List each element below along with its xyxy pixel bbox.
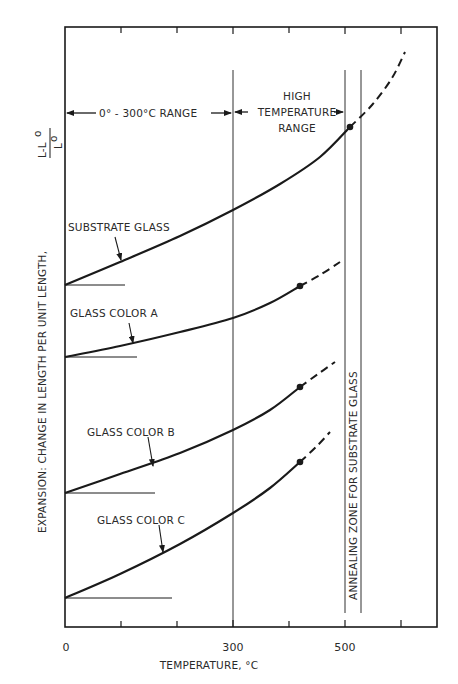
curve-end-dot [297, 384, 304, 391]
expansion-chart: 0° - 300°C RANGE HIGH TEMPERATURE RANGE … [0, 0, 458, 684]
series-substrate-glass [65, 52, 405, 285]
y-frac-numerator: L-L [36, 142, 48, 158]
x-axis-title: TEMPERATURE, °C [159, 659, 259, 671]
curve-solid [65, 127, 350, 285]
x-tick-label-300: 300 [222, 641, 244, 654]
curve-solid [65, 387, 300, 493]
series-label-color-c: GLASS COLOR C [97, 514, 185, 526]
series-label-color-a: GLASS COLOR A [70, 307, 158, 319]
label-pointer-arrow [159, 525, 163, 552]
curve-end-dot [297, 283, 304, 290]
curve-dashed-extension [350, 52, 405, 127]
label-pointer-arrow [129, 323, 133, 343]
curve-end-dot [347, 124, 354, 131]
label-pointer-arrow [115, 237, 121, 260]
series-label-substrate: SUBSTRATE GLASS [68, 221, 170, 233]
curve-solid [65, 462, 300, 598]
curve-dashed-extension [300, 362, 335, 387]
y-frac-denominator: L [52, 143, 64, 149]
range-high-label-3: RANGE [278, 122, 316, 134]
range-low-label: 0° - 300°C RANGE [99, 107, 197, 119]
range-high-annotation: HIGH TEMPERATURE RANGE [235, 90, 343, 134]
curve-dashed-extension [300, 262, 340, 286]
annealing-zone-label: ANNEALING ZONE FOR SUBSTRATE GLASS [347, 371, 359, 600]
range-high-label-2: TEMPERATURE [257, 106, 337, 118]
x-ticks-bottom [121, 620, 401, 627]
label-pointer-arrow [148, 437, 153, 466]
y-axis-title: EXPANSION: CHANGE IN LENGTH PER UNIT LEN… [36, 251, 48, 533]
range-high-label-1: HIGH [283, 90, 311, 102]
x-tick-label-0: 0 [62, 641, 69, 654]
x-ticks-top [121, 27, 401, 34]
y-axis-fraction: L-L o L o [31, 128, 64, 158]
curve-solid [65, 286, 300, 357]
y-frac-numerator-sub: o [31, 130, 43, 137]
series-label-color-b: GLASS COLOR B [87, 426, 175, 438]
annealing-zone-annotation: ANNEALING ZONE FOR SUBSTRATE GLASS [347, 315, 359, 600]
curve-end-dot [297, 459, 304, 466]
x-tick-label-500: 500 [334, 641, 356, 654]
curve-dashed-extension [300, 432, 330, 462]
range-low-annotation: 0° - 300°C RANGE [67, 107, 231, 119]
y-frac-denominator-sub: o [47, 135, 59, 142]
